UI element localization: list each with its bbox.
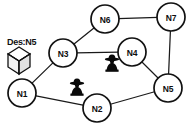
destination-marker: Des:N5 [7,37,37,74]
edge-n1-n3 [31,62,53,84]
node-n7[interactable]: N7 [157,3,185,31]
node-label-n6: N6 [100,15,111,25]
edge-n1-n2 [35,96,85,106]
node-n2[interactable]: N2 [83,94,111,122]
node-label-n5: N5 [163,84,174,94]
attacker-layer [70,54,119,95]
package-box-icon [8,47,30,74]
node-n4[interactable]: N4 [118,38,146,66]
node-label-n4: N4 [127,48,138,58]
node-layer: N1N2N3N4N5N6N7 [8,3,185,122]
node-label-n3: N3 [58,49,69,59]
edge-n4-n5 [141,61,159,79]
attacker-figure-icon [105,54,119,71]
attacker-figure-icon [70,78,84,95]
network-diagram: N1N2N3N4N5N6N7 Des:N5 [0,0,194,127]
node-n3[interactable]: N3 [49,39,77,67]
diagram-canvas: N1N2N3N4N5N6N7 Des:N5 [0,0,194,127]
node-n6[interactable]: N6 [91,5,119,33]
edge-n3-n6 [73,27,95,45]
destination-label: Des:N5 [7,37,37,47]
edge-n7-n5 [169,30,171,75]
node-label-n7: N7 [166,13,177,23]
edge-n2-n5 [110,92,156,105]
node-n5[interactable]: N5 [154,74,182,102]
node-n1[interactable]: N1 [8,79,36,107]
edge-n6-n7 [118,17,158,18]
edge-n3-n4 [76,52,119,53]
node-label-n2: N2 [92,104,103,114]
node-label-n1: N1 [17,89,28,99]
